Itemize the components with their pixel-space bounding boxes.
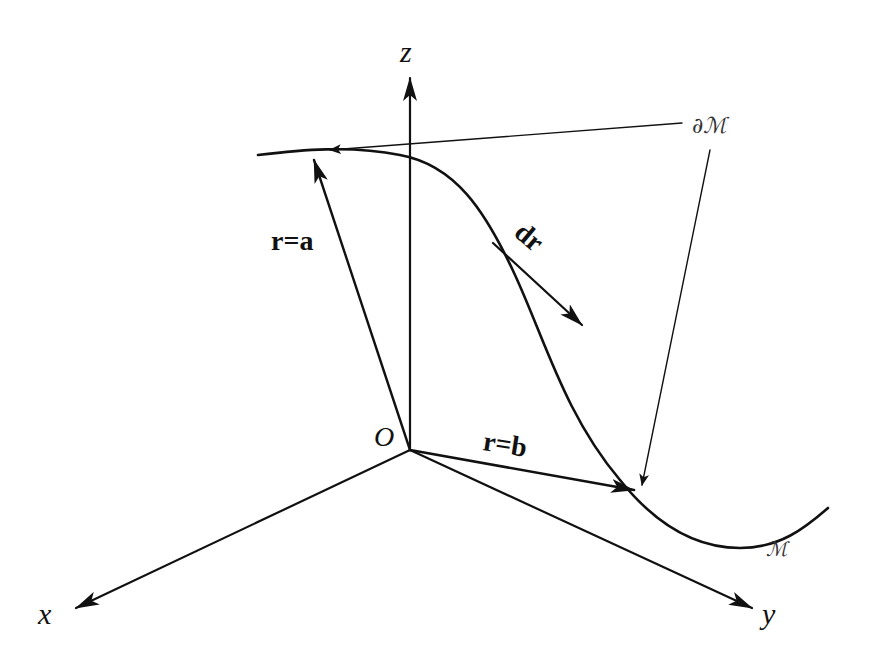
boundary-pointer-b (642, 150, 710, 485)
vector-dr-label: dr (509, 216, 550, 258)
vector-dr (493, 243, 582, 325)
y-axis-label: y (759, 597, 776, 630)
boundary-pointer-a (330, 123, 682, 150)
y-axis (410, 450, 752, 608)
x-axis (76, 450, 410, 608)
boundary-label: ∂ℳ (692, 113, 730, 138)
diagram-canvas: z x y O r=a r=b dr ∂ℳ ℳ (0, 0, 877, 660)
origin-label: O (374, 421, 394, 452)
z-axis-label: z (399, 35, 412, 68)
vector-r-a (314, 160, 410, 450)
curve-label: ℳ (766, 537, 790, 561)
x-axis-label: x (37, 597, 52, 630)
curve-m (258, 149, 828, 548)
vector-r-b-label: r=b (481, 425, 529, 462)
vector-r-a-label: r=a (271, 225, 313, 256)
